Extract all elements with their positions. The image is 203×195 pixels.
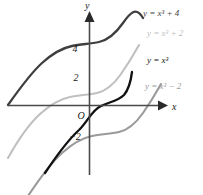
y-axis-label: y <box>84 0 90 11</box>
curve-x3-plus-4 <box>8 12 143 105</box>
x-axis-label: x <box>171 101 177 112</box>
y-tick-label-minus-2: −2 <box>69 131 81 142</box>
cubic-function-graph-figure: x y 4 2 −2 O y = x³ + 4 y = x³ + 2 y = x… <box>0 0 203 195</box>
y-axis: y <box>84 0 95 175</box>
y-tick-label-2: 2 <box>74 72 79 83</box>
legend-label-x3-plus-4: y = x³ + 4 <box>142 8 180 18</box>
x-axis-arrowhead <box>158 101 168 111</box>
x-axis: x <box>8 101 177 113</box>
legend-label-x3-plus-2: y = x³ + 2 <box>146 28 184 38</box>
legend-label-x3: y = x³ <box>146 55 169 65</box>
graph-svg: x y 4 2 −2 O y = x³ + 4 y = x³ + 2 y = x… <box>0 0 203 195</box>
legend-label-x3-minus-2: y = x³ − 2 <box>144 81 182 91</box>
y-axis-arrowhead <box>85 11 95 22</box>
y-tick-label-4: 4 <box>73 43 78 54</box>
origin-label: O <box>77 110 84 121</box>
curve-x3-minus-2 <box>28 84 161 195</box>
